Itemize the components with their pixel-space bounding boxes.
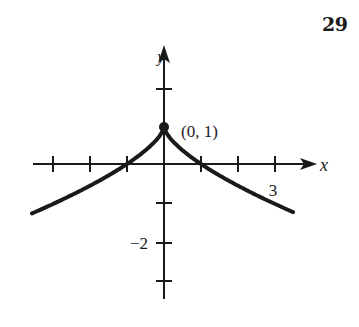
function-curve: [32, 127, 293, 213]
x-axis-label: x: [319, 155, 328, 175]
x-tick-label-3: 3: [269, 181, 278, 200]
function-graph-figure: 29 y x (0, 1) 3: [0, 0, 359, 327]
graph-plot: y x (0, 1) 3 −2: [0, 0, 359, 327]
point-marker: [159, 122, 169, 132]
point-label: (0, 1): [181, 122, 218, 141]
y-tick-label-neg2: −2: [130, 234, 148, 253]
problem-number: 29: [322, 13, 347, 35]
y-axis: [156, 45, 172, 299]
x-axis: [33, 156, 317, 172]
y-axis-label: y: [155, 47, 165, 66]
